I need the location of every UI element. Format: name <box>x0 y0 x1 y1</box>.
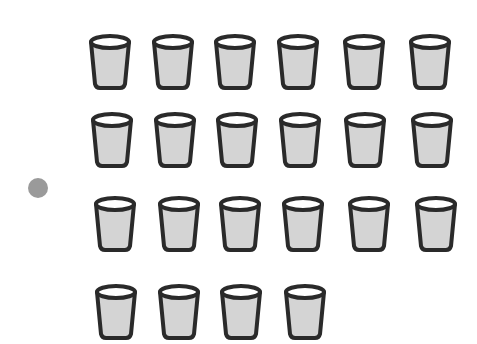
cup-icon <box>413 195 459 253</box>
cup-icon <box>87 33 133 91</box>
cup-icon <box>150 33 196 91</box>
cup-icon <box>282 283 328 341</box>
cup-icon <box>407 33 453 91</box>
cup-icon <box>217 195 263 253</box>
cup-icon <box>152 111 198 169</box>
cup-icon <box>212 33 258 91</box>
cup-icon <box>218 283 264 341</box>
cup-icon <box>92 195 138 253</box>
cup-icon <box>275 33 321 91</box>
cup-icon <box>156 283 202 341</box>
gray-dot <box>28 178 48 198</box>
cup-icon <box>93 283 139 341</box>
cup-icon <box>341 33 387 91</box>
cup-icon <box>280 195 326 253</box>
cup-icon <box>346 195 392 253</box>
cup-icon <box>214 111 260 169</box>
cup-icon <box>156 195 202 253</box>
cup-icon <box>342 111 388 169</box>
cup-icon <box>409 111 455 169</box>
cup-icon <box>277 111 323 169</box>
cup-icon <box>89 111 135 169</box>
